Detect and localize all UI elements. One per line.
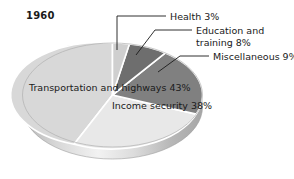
pie-slices <box>11 43 203 149</box>
slice-label-income-security: Income security 38% <box>112 100 168 112</box>
callout-label-miscellaneous: Miscellaneous 9% <box>213 51 294 63</box>
slice-label-transportation: Transportation and highways 43% <box>29 82 121 94</box>
callout-label-health: Health 3% <box>170 11 219 23</box>
callout-label-education: Education and training 8% <box>196 25 282 48</box>
pie-chart-figure: 1960 <box>0 0 294 179</box>
